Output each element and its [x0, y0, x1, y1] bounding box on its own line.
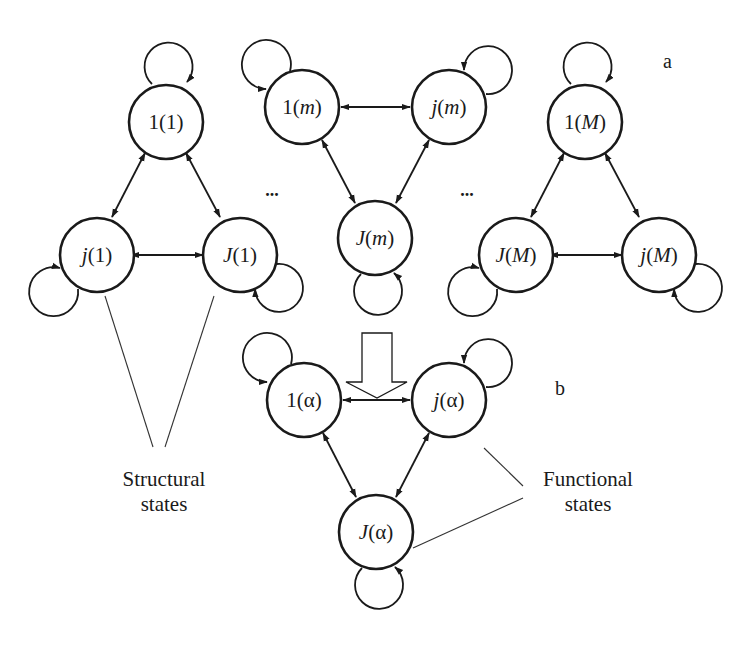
svg-text:J(m): J(m): [356, 226, 395, 250]
node-j(m): j(m): [412, 70, 486, 144]
edge-1(M)-j(M): [605, 153, 639, 217]
node-J(M): J(M): [479, 218, 553, 292]
node-1(m): 1(m): [265, 70, 339, 144]
leader-structural-j1: [105, 296, 153, 447]
svg-text:1(M): 1(M): [564, 110, 606, 134]
node-1(1): 1(1): [129, 85, 203, 159]
annotation-structural-line2: states: [141, 492, 188, 516]
annotation-functional-line2: states: [565, 492, 612, 516]
svg-text:j(α): j(α): [431, 388, 465, 412]
panel-label-a: a: [663, 50, 672, 72]
leader-functional-Jalpha: [413, 498, 523, 548]
self-loop-J(m): [354, 273, 402, 315]
state-diagram: a b ... ...: [0, 0, 750, 670]
node-J(alpha): J(α): [339, 495, 413, 569]
edge-1(1)-J(1): [186, 153, 220, 217]
svg-text:J(α): J(α): [359, 520, 393, 544]
svg-text:j(m): j(m): [428, 95, 466, 119]
node-j(alpha): j(α): [412, 363, 486, 437]
panel-label-b: b: [555, 377, 565, 399]
self-loop-1(1): [145, 43, 193, 84]
group-m-edges: [322, 107, 429, 203]
transform-arrow-icon: [346, 333, 407, 398]
leader-functional-jalpha: [484, 448, 523, 486]
svg-text:1(m): 1(m): [282, 95, 322, 119]
node-j(1): j(1): [60, 218, 134, 292]
svg-text:1(α): 1(α): [286, 388, 322, 412]
node-J(1): J(1): [203, 218, 277, 292]
self-loop-1(M): [564, 43, 612, 84]
edge-j(m)-J(m): [396, 140, 429, 203]
self-loop-J(α): [355, 567, 403, 609]
leader-structural-J1: [165, 296, 214, 447]
edge-j(α)-J(α): [396, 433, 429, 497]
annotation-functional-line1: Functional: [543, 467, 633, 491]
svg-text:J(M): J(M): [496, 243, 537, 267]
svg-text:j(M): j(M): [637, 243, 677, 267]
svg-text:1(1): 1(1): [149, 110, 184, 134]
node-J(m): J(m): [338, 201, 412, 275]
svg-text:j(1): j(1): [79, 243, 112, 267]
edge-1(m)-J(m): [322, 140, 355, 203]
ellipsis-left: ...: [265, 180, 279, 200]
annotation-structural-line1: Structural: [123, 467, 206, 491]
node-1(alpha): 1(α): [267, 363, 341, 437]
ellipsis-right: ...: [460, 180, 474, 200]
edge-1(α)-J(α): [323, 433, 356, 497]
node-1(M): 1(M): [548, 85, 622, 159]
node-j(M): j(M): [622, 218, 696, 292]
edge-1(1)-j(1): [112, 153, 145, 217]
edge-1(M)-J(M): [531, 153, 564, 217]
svg-text:J(1): J(1): [223, 243, 257, 267]
